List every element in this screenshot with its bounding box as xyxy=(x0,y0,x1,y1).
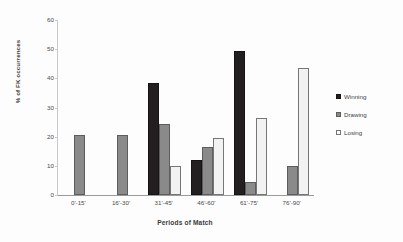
legend-label: Losing xyxy=(344,129,362,136)
x-tick-label: 0'-15' xyxy=(57,199,100,206)
legend-label: Drawing xyxy=(344,111,367,118)
bar-losing[interactable] xyxy=(298,68,309,195)
x-tick-label: 76'-90' xyxy=(270,199,313,206)
x-tick-label: 31'-45' xyxy=(142,199,185,206)
legend-item[interactable]: Losing xyxy=(336,129,367,136)
bar-drawing[interactable] xyxy=(287,166,298,195)
legend: WinningDrawingLosing xyxy=(336,93,367,147)
bar-group xyxy=(143,20,186,195)
bar-chart: % of FK occurrences 0102030405060 0'-15'… xyxy=(0,0,403,242)
bar-group xyxy=(271,20,314,195)
bar-drawing[interactable] xyxy=(74,135,85,195)
y-tick-label: 30 xyxy=(38,104,54,110)
legend-label: Winning xyxy=(344,93,366,100)
bar-group xyxy=(186,20,229,195)
legend-swatch-icon xyxy=(336,112,341,117)
y-tick-mark xyxy=(55,195,58,196)
x-axis-title: Periods of Match xyxy=(57,219,313,226)
x-tick-label: 61'-75' xyxy=(228,199,271,206)
legend-item[interactable]: Drawing xyxy=(336,111,367,118)
y-axis-title: % of FK occurrences xyxy=(14,17,21,127)
bar-drawing[interactable] xyxy=(202,147,213,195)
bar-drawing[interactable] xyxy=(159,124,170,195)
y-tick-label: 40 xyxy=(38,75,54,81)
x-tick-label: 16'-30' xyxy=(100,199,143,206)
bar-drawing[interactable] xyxy=(245,182,256,195)
bar-losing[interactable] xyxy=(256,118,267,195)
y-tick-label: 20 xyxy=(38,134,54,140)
bar-winning[interactable] xyxy=(234,51,245,195)
x-axis-tick-labels: 0'-15'16'-30'31'-45'46'-60'61'-75'76'-90… xyxy=(57,199,313,206)
legend-swatch-icon xyxy=(336,94,341,99)
bar-losing[interactable] xyxy=(213,138,224,195)
bar-losing[interactable] xyxy=(170,166,181,195)
y-tick-label: 50 xyxy=(38,46,54,52)
y-tick-label: 10 xyxy=(38,163,54,169)
legend-swatch-icon xyxy=(336,130,341,135)
x-tick-label: 46'-60' xyxy=(185,199,228,206)
bar-group xyxy=(101,20,144,195)
bar-group xyxy=(229,20,272,195)
y-tick-label: 60 xyxy=(38,17,54,23)
bar-winning[interactable] xyxy=(191,160,202,195)
legend-item[interactable]: Winning xyxy=(336,93,367,100)
y-tick-label: 0 xyxy=(38,192,54,198)
bar-group xyxy=(58,20,101,195)
bar-winning[interactable] xyxy=(148,83,159,195)
bar-groups xyxy=(58,20,314,195)
plot-area: 0102030405060 xyxy=(57,20,314,196)
bar-drawing[interactable] xyxy=(117,135,128,195)
